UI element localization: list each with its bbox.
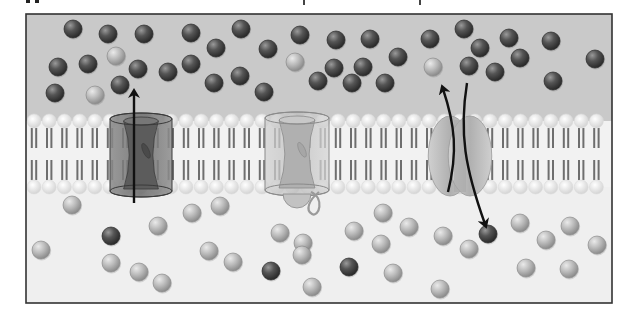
cropped-caption-fragment xyxy=(35,0,39,3)
open-channel-icon xyxy=(110,113,172,197)
cropped-caption-fragment xyxy=(419,0,421,5)
membrane-transport-diagram xyxy=(0,0,628,318)
diagram-canvas xyxy=(0,0,628,318)
cropped-caption-fragment xyxy=(303,0,305,5)
cropped-caption-fragment xyxy=(26,0,30,3)
carrier-protein-icon xyxy=(428,116,492,196)
